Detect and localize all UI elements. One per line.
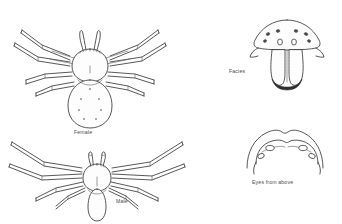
- illustration-plate: Female Male Facies Eyes from above: [0, 0, 342, 224]
- female-right-legs: [106, 30, 166, 96]
- female-pedipalps: [80, 31, 101, 51]
- figure-female-dorsal: [14, 30, 166, 128]
- caption-eyes-from-above: Eyes from above: [252, 180, 293, 185]
- facies-chelicerae: [271, 50, 303, 90]
- figure-male-dorsal: [9, 142, 185, 221]
- female-left-legs: [14, 30, 74, 96]
- eyes-above-row: [257, 145, 316, 159]
- caption-female: Female: [74, 130, 92, 135]
- male-carapace: [83, 164, 111, 191]
- female-abdomen: [68, 80, 112, 128]
- figure-facies: [250, 20, 324, 90]
- caption-facies: Facies: [229, 69, 245, 74]
- plate-artwork: [0, 0, 342, 224]
- figure-eyes-from-above: [247, 130, 323, 174]
- male-left-legs: [9, 142, 85, 209]
- female-carapace: [72, 49, 108, 82]
- caption-male: Male: [116, 199, 128, 204]
